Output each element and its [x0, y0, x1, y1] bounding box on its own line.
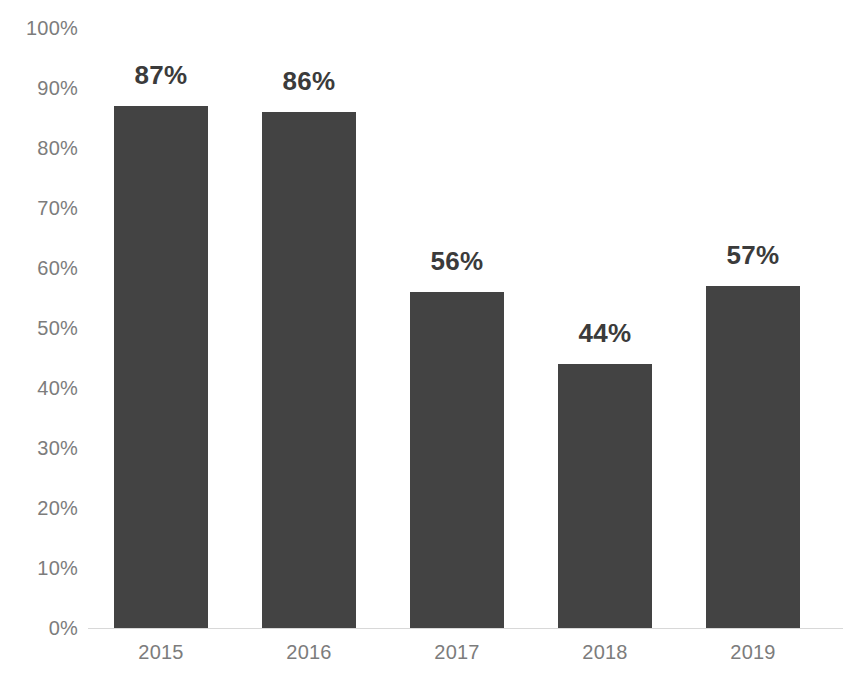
y-tick-label-80: 80% — [37, 137, 78, 160]
bar-value-2018: 44% — [579, 318, 632, 349]
x-tick-label-2018: 2018 — [582, 641, 627, 664]
y-tick-label-0: 0% — [49, 617, 78, 640]
y-tick-label-50: 50% — [37, 317, 78, 340]
y-tick-label-40: 40% — [37, 377, 78, 400]
bar-2015[interactable] — [114, 106, 208, 628]
y-tick-label-90: 90% — [37, 77, 78, 100]
bar-value-2015: 87% — [135, 60, 188, 91]
y-tick-label-30: 30% — [37, 437, 78, 460]
x-tick-label-2019: 2019 — [730, 641, 775, 664]
y-tick-label-100: 100% — [26, 17, 78, 40]
y-tick-label-10: 10% — [37, 557, 78, 580]
bar-2016[interactable] — [262, 112, 356, 628]
bar-group-2017: 56% 2017 — [410, 0, 504, 690]
bar-value-2017: 56% — [431, 246, 484, 277]
bar-group-2019: 57% 2019 — [706, 0, 800, 690]
bar-group-2015: 87% 2015 — [114, 0, 208, 690]
x-tick-label-2017: 2017 — [434, 641, 479, 664]
bar-2019[interactable] — [706, 286, 800, 628]
bar-2018[interactable] — [558, 364, 652, 628]
x-tick-label-2016: 2016 — [286, 641, 331, 664]
y-tick-label-60: 60% — [37, 257, 78, 280]
bar-value-2016: 86% — [283, 66, 336, 97]
bar-value-2019: 57% — [727, 240, 780, 271]
y-tick-label-70: 70% — [37, 197, 78, 220]
plot-area: 87% 2015 86% 2016 56% 2017 44% 2018 57% … — [88, 0, 843, 690]
bar-group-2018: 44% 2018 — [558, 0, 652, 690]
y-axis: 100% 90% 80% 70% 60% 50% 40% 30% 20% 10%… — [0, 0, 88, 690]
y-tick-label-20: 20% — [37, 497, 78, 520]
x-tick-label-2015: 2015 — [138, 641, 183, 664]
bar-chart: 100% 90% 80% 70% 60% 50% 40% 30% 20% 10%… — [0, 0, 843, 690]
bar-group-2016: 86% 2016 — [262, 0, 356, 690]
bar-2017[interactable] — [410, 292, 504, 628]
